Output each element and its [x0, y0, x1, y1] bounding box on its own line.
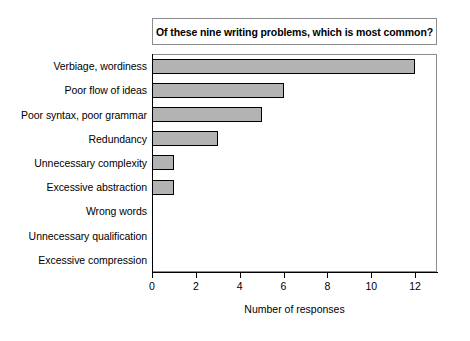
bar-row: [152, 78, 284, 102]
x-tick-label: 10: [356, 280, 386, 292]
category-label: Verbiage, wordiness: [0, 54, 147, 78]
bar: [152, 228, 153, 243]
category-label: Excessive abstraction: [0, 175, 147, 199]
y-axis-category-labels: Verbiage, wordinessPoor flow of ideasPoo…: [0, 54, 147, 272]
category-label: Poor flow of ideas: [0, 78, 147, 102]
bar: [152, 131, 218, 146]
bar: [152, 83, 284, 98]
x-tick-label: 2: [181, 280, 211, 292]
category-label: Redundancy: [0, 127, 147, 151]
bar: [152, 155, 174, 170]
bar-row: [152, 199, 153, 223]
bar-row: [152, 54, 415, 78]
x-tick-mark: [152, 273, 153, 278]
bar: [152, 107, 262, 122]
bar-row: [152, 175, 174, 199]
x-tick-label: 8: [312, 280, 342, 292]
x-tick-mark: [415, 273, 416, 278]
x-tick-mark: [371, 273, 372, 278]
chart-title: Of these nine writing problems, which is…: [156, 26, 433, 38]
bar-row: [152, 248, 153, 272]
x-tick-mark: [240, 273, 241, 278]
x-tick-label: 6: [269, 280, 299, 292]
category-label: Poor syntax, poor grammar: [0, 102, 147, 126]
category-label: Unnecessary complexity: [0, 151, 147, 175]
x-tick-label: 4: [225, 280, 255, 292]
bar-row: [152, 224, 153, 248]
bar-row: [152, 127, 218, 151]
bar-series: [152, 54, 437, 272]
bar: [152, 180, 174, 195]
category-label: Unnecessary qualification: [0, 224, 147, 248]
x-tick-mark: [327, 273, 328, 278]
x-tick-label: 0: [137, 280, 167, 292]
bar-row: [152, 151, 174, 175]
bar: [152, 204, 153, 219]
x-tick-mark: [196, 273, 197, 278]
x-tick-mark: [284, 273, 285, 278]
bar: [152, 252, 153, 267]
category-label: Excessive compression: [0, 248, 147, 272]
chart-title-box: Of these nine writing problems, which is…: [152, 18, 437, 45]
bar: [152, 59, 415, 74]
bar-row: [152, 102, 262, 126]
x-tick-label: 12: [400, 280, 430, 292]
category-label: Wrong words: [0, 199, 147, 223]
x-axis-title: Number of responses: [152, 303, 437, 315]
